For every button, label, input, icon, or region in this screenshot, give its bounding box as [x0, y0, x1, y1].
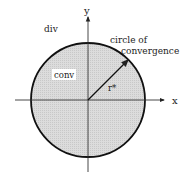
divergence-region-label: div — [44, 24, 59, 34]
convergence-circle-diagram: y x div conv circle of convergence r* — [0, 0, 189, 182]
convergence-region-label: conv — [54, 70, 74, 80]
radius-label: r* — [108, 83, 117, 93]
circle-label-line1: circle of — [110, 35, 148, 45]
x-axis-label: x — [172, 95, 178, 106]
circle-label-line2: convergence — [121, 46, 179, 56]
y-axis-label: y — [83, 5, 90, 16]
